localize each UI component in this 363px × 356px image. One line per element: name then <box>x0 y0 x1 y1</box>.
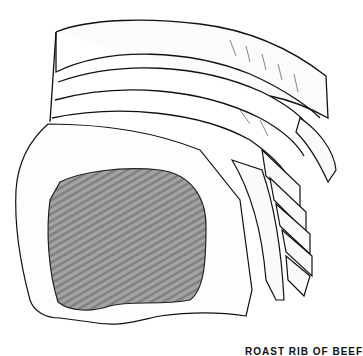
caption: ROAST RIB OF BEEF <box>245 346 363 356</box>
meat-cross-section <box>48 169 206 310</box>
